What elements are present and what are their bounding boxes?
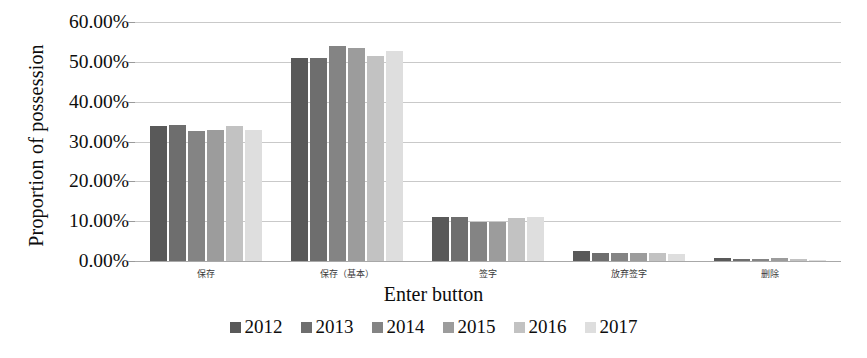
legend-swatch-icon <box>585 322 596 333</box>
y-tick-label: 10.00% <box>69 210 129 232</box>
legend-label: 2012 <box>245 316 283 338</box>
bar[interactable] <box>451 217 468 261</box>
legend-swatch-icon <box>301 322 312 333</box>
bar-group: 保存 <box>135 22 276 261</box>
bar-group: 删除 <box>700 22 841 261</box>
bar[interactable] <box>489 222 506 261</box>
bar[interactable] <box>329 46 346 261</box>
bar[interactable] <box>226 126 243 261</box>
y-tick-mark <box>128 181 135 182</box>
bar[interactable] <box>649 253 666 261</box>
legend-label: 2015 <box>458 316 496 338</box>
bar-group: 保存（基本） <box>276 22 417 261</box>
bar[interactable] <box>348 48 365 261</box>
legend-label: 2016 <box>529 316 567 338</box>
legend-item[interactable]: 2014 <box>372 316 425 338</box>
x-tick-label: 签字 <box>479 267 497 280</box>
bar[interactable] <box>592 253 609 261</box>
legend-item[interactable]: 2017 <box>585 316 638 338</box>
bar[interactable] <box>809 260 826 261</box>
bar[interactable] <box>207 130 224 261</box>
bar[interactable] <box>733 259 750 261</box>
chart-legend: 201220132014201520162017 <box>0 316 867 338</box>
y-tick-mark <box>128 62 135 63</box>
bar[interactable] <box>573 251 590 261</box>
bar-group: 签字 <box>417 22 558 261</box>
legend-label: 2014 <box>387 316 425 338</box>
y-tick-label: 40.00% <box>69 91 129 113</box>
x-tick-label: 保存 <box>197 267 215 280</box>
x-axis-title: Enter button <box>0 283 867 306</box>
x-tick-label: 放弃签字 <box>611 267 647 280</box>
bar-group: 放弃签字 <box>559 22 700 261</box>
bar[interactable] <box>150 126 167 261</box>
bar[interactable] <box>790 259 807 261</box>
y-axis-ticks: 0.00%10.00%20.00%30.00%40.00%50.00%60.00… <box>13 22 129 261</box>
y-tick-label: 20.00% <box>69 170 129 192</box>
plot-area: 0.00%10.00%20.00%30.00%40.00%50.00%60.00… <box>135 22 841 261</box>
x-tick-label: 保存（基本） <box>320 267 374 280</box>
bar[interactable] <box>245 130 262 261</box>
bar[interactable] <box>508 218 525 261</box>
bar[interactable] <box>169 125 186 261</box>
bar[interactable] <box>630 253 647 261</box>
legend-item[interactable]: 2012 <box>230 316 283 338</box>
x-tick-label: 删除 <box>761 267 779 280</box>
y-tick-label: 30.00% <box>69 131 129 153</box>
y-tick-mark <box>128 22 135 23</box>
gridline <box>135 261 841 262</box>
bar[interactable] <box>611 253 628 261</box>
legend-label: 2013 <box>316 316 354 338</box>
bar[interactable] <box>432 217 449 261</box>
legend-swatch-icon <box>372 322 383 333</box>
legend-swatch-icon <box>443 322 454 333</box>
bar[interactable] <box>386 51 403 261</box>
bar[interactable] <box>714 258 731 261</box>
bar[interactable] <box>771 258 788 261</box>
bar-chart: Proportion of possession 0.00%10.00%20.0… <box>0 0 867 358</box>
y-tick-label: 60.00% <box>69 11 129 33</box>
bar[interactable] <box>310 58 327 261</box>
legend-item[interactable]: 2013 <box>301 316 354 338</box>
legend-item[interactable]: 2015 <box>443 316 496 338</box>
bar[interactable] <box>527 217 544 261</box>
bar[interactable] <box>188 131 205 261</box>
y-tick-label: 0.00% <box>79 250 129 272</box>
bar[interactable] <box>291 58 308 261</box>
bar[interactable] <box>470 222 487 261</box>
y-tick-mark <box>128 221 135 222</box>
bar[interactable] <box>367 56 384 261</box>
y-tick-mark <box>128 261 135 262</box>
bar[interactable] <box>668 254 685 261</box>
legend-swatch-icon <box>230 322 241 333</box>
legend-item[interactable]: 2016 <box>514 316 567 338</box>
y-tick-mark <box>128 142 135 143</box>
legend-label: 2017 <box>600 316 638 338</box>
bar[interactable] <box>752 259 769 261</box>
bar-groups: 保存保存（基本）签字放弃签字删除 <box>135 22 841 261</box>
legend-swatch-icon <box>514 322 525 333</box>
y-tick-mark <box>128 102 135 103</box>
y-tick-label: 50.00% <box>69 51 129 73</box>
